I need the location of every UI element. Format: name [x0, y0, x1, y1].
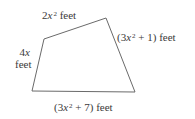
top-var: x	[48, 9, 53, 21]
quadrilateral-outline	[32, 18, 135, 92]
bottom-exp: 2	[69, 102, 73, 110]
bottom-side-label: (3x2 + 7) feet	[54, 101, 113, 113]
quadrilateral-figure: 2x2 feet (3x2 + 1) feet 4x feet (3x2 + 7…	[0, 0, 195, 119]
right-rest: + 1) feet	[136, 31, 176, 43]
left-side-label: 4x feet	[18, 46, 31, 70]
left-unit: feet	[15, 58, 31, 70]
right-side-label: (3x2 + 1) feet	[117, 31, 176, 43]
right-var: x	[126, 31, 131, 43]
top-unit: feet	[60, 9, 76, 21]
top-exp: 2	[53, 10, 57, 18]
left-var: x	[25, 46, 30, 58]
bottom-var: x	[63, 101, 68, 113]
right-open: (3	[117, 31, 126, 43]
top-side-label: 2x2 feet	[42, 9, 76, 21]
bottom-open: (3	[54, 101, 63, 113]
right-exp: 2	[132, 32, 136, 40]
bottom-rest: + 7) feet	[73, 101, 113, 113]
